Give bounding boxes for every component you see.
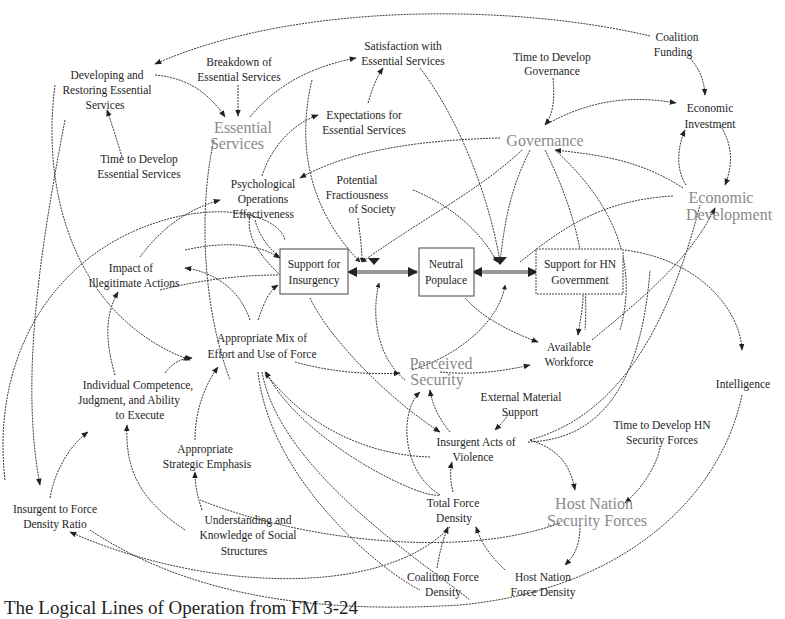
svg-text:Security: Security bbox=[410, 371, 463, 389]
var-time-develop-services[interactable]: Time to Develop Essential Services bbox=[97, 153, 181, 180]
svg-text:Insurgent Acts of: Insurgent Acts of bbox=[436, 436, 515, 449]
figure-caption: The Logical Lines of Operation from FM 3… bbox=[4, 597, 358, 619]
svg-text:Services: Services bbox=[86, 99, 125, 111]
var-breakdown-services[interactable]: Breakdown of Essential Services bbox=[197, 56, 281, 83]
svg-text:Economic: Economic bbox=[689, 189, 754, 206]
svg-text:Appropriate Mix of: Appropriate Mix of bbox=[217, 332, 307, 345]
var-potential-fractiousness[interactable]: Potential Fractiousness of Society bbox=[326, 174, 396, 216]
svg-text:Host Nation: Host Nation bbox=[555, 495, 633, 512]
svg-text:Fractiousness: Fractiousness bbox=[326, 189, 389, 201]
svg-text:Violence: Violence bbox=[453, 451, 494, 463]
var-psyops-effectiveness[interactable]: Psychological Operations Effectiveness bbox=[231, 178, 296, 220]
svg-text:Restoring Essential: Restoring Essential bbox=[62, 84, 151, 97]
svg-text:Support for HN: Support for HN bbox=[544, 258, 617, 271]
valve-icon bbox=[493, 257, 507, 265]
var-time-develop-hn-forces[interactable]: Time to Develop HN Security Forces bbox=[613, 419, 711, 447]
svg-text:Support: Support bbox=[502, 406, 539, 419]
var-appropriate-strategic-emphasis[interactable]: Appropriate Strategic Emphasis bbox=[163, 443, 252, 471]
var-developing-restoring[interactable]: Developing and Restoring Essential Servi… bbox=[62, 69, 151, 111]
svg-text:of Society: of Society bbox=[349, 203, 396, 216]
var-impact-illegitimate-actions[interactable]: Impact of Illegitimate Actions bbox=[88, 262, 180, 290]
var-time-develop-governance[interactable]: Time to Develop Governance bbox=[513, 51, 591, 77]
svg-text:Time to Develop HN: Time to Develop HN bbox=[613, 419, 711, 432]
sector-perceived-security[interactable]: Perceived Security bbox=[409, 355, 472, 389]
svg-text:Effort and Use of Force: Effort and Use of Force bbox=[207, 348, 316, 360]
svg-text:Total Force: Total Force bbox=[427, 497, 480, 509]
svg-text:Satisfaction with: Satisfaction with bbox=[364, 40, 442, 52]
svg-text:Insurgency: Insurgency bbox=[289, 274, 340, 287]
svg-text:Investment: Investment bbox=[684, 118, 736, 130]
var-individual-competence[interactable]: Individual Competence, Judgment, and Abi… bbox=[78, 379, 193, 421]
svg-text:Perceived: Perceived bbox=[409, 355, 472, 372]
svg-text:Economic: Economic bbox=[687, 102, 734, 114]
svg-text:Security Forces: Security Forces bbox=[626, 434, 698, 447]
svg-text:Coalition Force: Coalition Force bbox=[407, 571, 479, 583]
svg-text:Appropriate: Appropriate bbox=[177, 443, 233, 456]
svg-text:Services: Services bbox=[210, 135, 264, 152]
sector-economic-development[interactable]: Economic Development bbox=[686, 189, 773, 224]
svg-text:Breakdown of: Breakdown of bbox=[206, 56, 272, 68]
svg-text:Essential Services: Essential Services bbox=[97, 168, 181, 180]
svg-text:Force Density: Force Density bbox=[511, 586, 576, 599]
svg-text:Intelligence: Intelligence bbox=[716, 378, 770, 391]
var-appropriate-mix[interactable]: Appropriate Mix of Effort and Use of For… bbox=[207, 332, 316, 360]
svg-text:Essential Services: Essential Services bbox=[322, 124, 406, 136]
var-economic-investment[interactable]: Economic Investment bbox=[684, 102, 736, 130]
svg-text:Time to Develop: Time to Develop bbox=[100, 153, 178, 166]
svg-text:Density Ratio: Density Ratio bbox=[23, 518, 87, 531]
svg-text:Funding: Funding bbox=[654, 46, 693, 59]
svg-text:Understanding and: Understanding and bbox=[204, 514, 291, 527]
var-coalition-force-density[interactable]: Coalition Force Density bbox=[407, 571, 479, 599]
svg-text:Illegitimate Actions: Illegitimate Actions bbox=[88, 277, 180, 290]
svg-text:Populace: Populace bbox=[425, 274, 467, 287]
var-external-material-support[interactable]: External Material Support bbox=[481, 391, 562, 419]
svg-text:Time to Develop: Time to Develop bbox=[513, 51, 591, 64]
var-hn-force-density[interactable]: Host Nation Force Density bbox=[511, 571, 576, 599]
svg-text:Government: Government bbox=[551, 274, 609, 286]
var-available-workforce[interactable]: Available Workforce bbox=[545, 341, 594, 368]
svg-text:Expectations for: Expectations for bbox=[326, 109, 402, 122]
svg-text:Density: Density bbox=[436, 512, 472, 525]
var-satisfaction-services[interactable]: Satisfaction with Essential Services bbox=[361, 40, 445, 67]
svg-text:Neutral: Neutral bbox=[429, 258, 463, 270]
svg-text:External Material: External Material bbox=[481, 391, 562, 403]
svg-text:Host Nation: Host Nation bbox=[515, 571, 571, 583]
svg-text:Individual Competence,: Individual Competence, bbox=[83, 379, 194, 392]
var-expectations-services[interactable]: Expectations for Essential Services bbox=[322, 109, 406, 136]
svg-text:Governance: Governance bbox=[524, 65, 580, 77]
svg-text:Operations: Operations bbox=[238, 193, 289, 206]
svg-text:Development: Development bbox=[686, 206, 773, 224]
stock-neutral-populace[interactable]: Neutral Populace bbox=[419, 248, 474, 296]
sector-governance[interactable]: Governance bbox=[506, 132, 583, 149]
svg-text:Impact of: Impact of bbox=[109, 262, 154, 275]
stock-support-insurgency[interactable]: Support for Insurgency bbox=[280, 249, 348, 294]
svg-text:Governance: Governance bbox=[506, 132, 583, 149]
svg-text:Insurgent to Force: Insurgent to Force bbox=[13, 503, 97, 516]
var-coalition-funding[interactable]: Coalition Funding bbox=[654, 31, 699, 59]
svg-text:Knowledge of Social: Knowledge of Social bbox=[199, 529, 296, 542]
svg-text:Coalition: Coalition bbox=[656, 31, 699, 43]
svg-text:Essential Services: Essential Services bbox=[197, 71, 281, 83]
svg-text:Judgment, and Ability: Judgment, and Ability bbox=[78, 394, 180, 407]
svg-text:Strategic Emphasis: Strategic Emphasis bbox=[163, 458, 252, 471]
svg-text:Essential Services: Essential Services bbox=[361, 55, 445, 67]
stock-support-hn-government[interactable]: Support for HN Government bbox=[536, 249, 623, 294]
svg-text:Developing and: Developing and bbox=[70, 69, 143, 82]
sector-essential-services[interactable]: Essential Services bbox=[210, 119, 273, 152]
sector-host-nation-security-forces[interactable]: Host Nation Security Forces bbox=[547, 495, 647, 530]
var-insurgent-acts-violence[interactable]: Insurgent Acts of Violence bbox=[436, 436, 515, 463]
svg-text:Psychological: Psychological bbox=[231, 178, 296, 191]
svg-text:Essential: Essential bbox=[214, 119, 272, 136]
var-insurgent-force-ratio[interactable]: Insurgent to Force Density Ratio bbox=[13, 503, 97, 531]
svg-text:Effectiveness: Effectiveness bbox=[232, 208, 294, 220]
var-understanding-social-structures[interactable]: Understanding and Knowledge of Social St… bbox=[199, 514, 296, 557]
var-total-force-density[interactable]: Total Force Density bbox=[427, 497, 480, 525]
var-intelligence[interactable]: Intelligence bbox=[716, 378, 770, 391]
svg-text:Density: Density bbox=[425, 586, 461, 599]
svg-text:to Execute: to Execute bbox=[116, 409, 165, 421]
valve-icon bbox=[368, 258, 380, 265]
svg-text:Support for: Support for bbox=[288, 258, 341, 271]
svg-text:Security Forces: Security Forces bbox=[547, 512, 647, 530]
svg-text:Workforce: Workforce bbox=[545, 356, 594, 368]
